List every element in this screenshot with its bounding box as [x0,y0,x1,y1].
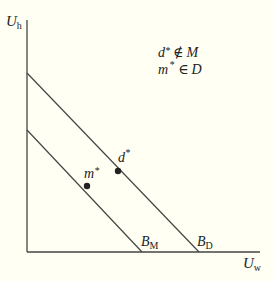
label-b-d: BD [197,234,213,251]
label-b-m: BM [141,234,159,251]
label-d-star: d* [118,147,130,165]
legend-line-2: m*∈D [158,59,202,77]
y-axis-label: Uh [6,13,22,31]
budget-diagram: Uh Uw BM BD d* m* d*∉M m*∈D [0,0,273,281]
x-axis-label: Uw [243,255,262,273]
point-m-star [84,183,90,189]
point-d-star [115,168,121,174]
legend-line-1: d*∉M [158,45,199,60]
label-m-star: m* [84,165,99,181]
budget-line-d [27,73,199,252]
